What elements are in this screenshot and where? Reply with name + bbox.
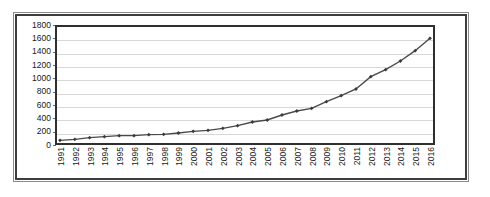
x-tick-label-2001: 2001 (204, 147, 214, 166)
x-tick-label-2012: 2012 (367, 147, 377, 166)
data-point-1999 (177, 131, 181, 135)
data-point-1997 (147, 133, 151, 137)
series-line (60, 38, 430, 140)
y-tick-label-1600: 1600 (32, 34, 51, 43)
data-point-2001 (206, 128, 210, 132)
y-tick-label-1800: 1800 (32, 21, 51, 30)
x-tick-label-1991: 1991 (56, 147, 66, 166)
y-tick-label-0: 0 (46, 141, 51, 150)
data-point-1998 (162, 132, 166, 136)
y-tick-label-600: 600 (37, 101, 51, 110)
x-tick-label-2008: 2008 (308, 147, 318, 166)
x-tick-label-1995: 1995 (115, 147, 125, 166)
data-point-2006 (280, 113, 284, 117)
data-point-2003 (236, 124, 240, 128)
x-tick-label-1997: 1997 (145, 147, 155, 166)
x-tick-label-2013: 2013 (382, 147, 392, 166)
x-axis: 1991199219931994199519961997199819992000… (55, 147, 435, 185)
x-tick-label-2003: 2003 (234, 147, 244, 166)
series-markers (58, 36, 432, 142)
x-tick-label-2007: 2007 (293, 147, 303, 166)
data-point-2000 (191, 129, 195, 133)
y-tick-label-1000: 1000 (32, 74, 51, 83)
x-tick-label-1999: 1999 (174, 147, 184, 166)
x-tick-label-2011: 2011 (352, 147, 362, 165)
chart-plot-wrapper: 180016001400120010008006004002000 199119… (17, 16, 473, 186)
x-tick-label-1996: 1996 (130, 147, 140, 166)
y-tick-label-200: 200 (37, 127, 51, 136)
x-tick-label-2015: 2015 (411, 147, 421, 166)
data-series (55, 25, 435, 145)
chart-card-border: 180016001400120010008006004002000 199119… (15, 14, 467, 180)
data-point-2005 (265, 118, 269, 122)
y-tick-label-1400: 1400 (32, 47, 51, 56)
x-tick-label-2000: 2000 (189, 147, 199, 166)
data-point-1992 (73, 137, 77, 141)
x-tick-label-2016: 2016 (426, 147, 436, 166)
x-tick-label-2006: 2006 (278, 147, 288, 166)
data-point-2002 (221, 126, 225, 130)
data-point-1995 (117, 134, 121, 138)
x-tick-label-2010: 2010 (337, 147, 347, 166)
x-tick-label-1994: 1994 (100, 147, 110, 166)
y-axis: 180016001400120010008006004002000 (17, 16, 53, 154)
x-tick-label-2004: 2004 (248, 147, 258, 166)
x-tick-label-1998: 1998 (160, 147, 170, 166)
chart-card: 180016001400120010008006004002000 199119… (13, 12, 469, 182)
x-tick-label-1992: 1992 (71, 147, 81, 166)
y-tick-label-800: 800 (37, 87, 51, 96)
data-point-2004 (251, 120, 255, 124)
data-point-1993 (88, 136, 92, 140)
x-tick-label-2014: 2014 (396, 147, 406, 166)
y-tick-label-1200: 1200 (32, 61, 51, 70)
x-tick-label-2002: 2002 (219, 147, 229, 166)
y-tick-label-400: 400 (37, 114, 51, 123)
x-tick-label-2009: 2009 (322, 147, 332, 166)
x-tick-label-2005: 2005 (263, 147, 273, 166)
data-point-2007 (295, 109, 299, 113)
y-tick-mark-0 (53, 145, 56, 146)
data-point-1996 (132, 134, 136, 138)
data-point-1994 (103, 135, 107, 139)
x-tick-label-1993: 1993 (86, 147, 96, 166)
data-point-1991 (58, 138, 62, 142)
